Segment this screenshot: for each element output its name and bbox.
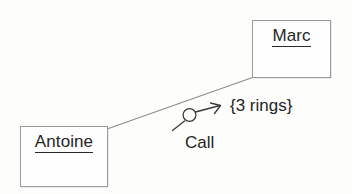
message-arrow-group[interactable] — [173, 103, 221, 131]
message-label-call: Call — [185, 133, 214, 152]
object-box-antoine[interactable]: Antoine — [20, 126, 108, 187]
message-arrow-head-icon — [211, 103, 221, 114]
object-name-antoine-container: Antoine — [21, 132, 107, 152]
object-name-antoine: Antoine — [35, 132, 93, 153]
message-constraint-label: {3 rings} — [230, 96, 292, 115]
diagram-canvas: Marc Antoine Call {3 rings} — [0, 0, 352, 194]
object-name-marc: Marc — [272, 26, 310, 47]
object-name-marc-container: Marc — [253, 26, 330, 46]
message-arrow-shaft — [196, 106, 221, 113]
message-arrow-tail — [173, 121, 185, 131]
message-circle-icon — [183, 109, 196, 122]
object-box-marc[interactable]: Marc — [252, 20, 331, 78]
